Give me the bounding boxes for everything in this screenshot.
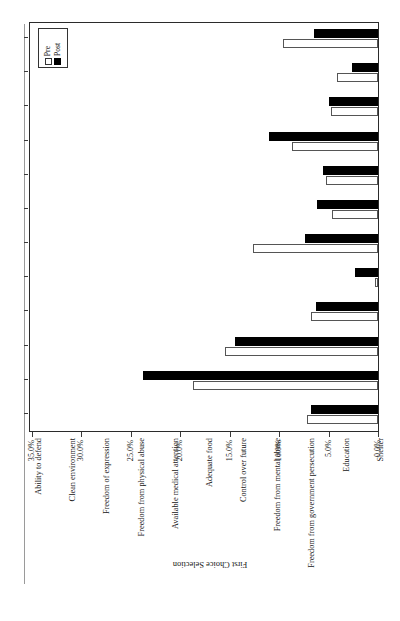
bar-group xyxy=(30,262,378,296)
bar-group xyxy=(30,126,378,160)
bar-post[interactable] xyxy=(314,29,378,38)
category-label: Clean environment xyxy=(69,438,77,501)
bar-pre[interactable] xyxy=(225,347,378,356)
category-axis-tick xyxy=(24,242,28,243)
category-label: Shelter xyxy=(377,438,385,462)
category-label: Freedom from mental abuse xyxy=(274,438,282,531)
bar-group xyxy=(30,23,378,57)
bar-post[interactable] xyxy=(316,302,378,311)
bar-pre[interactable] xyxy=(292,142,378,151)
bar-post[interactable] xyxy=(355,268,378,277)
category-label: Freedom from government persecution xyxy=(308,438,316,568)
category-axis-title: First Choice Selection xyxy=(150,560,270,569)
category-axis-tick xyxy=(24,413,28,414)
category-label: Adequate food xyxy=(206,438,214,487)
category-label: Available medical attention xyxy=(172,438,180,529)
bar-post[interactable] xyxy=(143,371,378,380)
bar-group xyxy=(30,399,378,433)
bar-group xyxy=(30,296,378,330)
value-axis-tick-label: 15.0% xyxy=(225,440,234,461)
bar-group xyxy=(30,91,378,125)
bar-pre[interactable] xyxy=(326,176,378,185)
bar-post[interactable] xyxy=(317,200,378,209)
chart-plot-area: Post Pre xyxy=(29,22,379,432)
bar-post[interactable] xyxy=(269,132,378,141)
value-axis-tick-label: 25.0% xyxy=(126,440,135,461)
bar-group xyxy=(30,160,378,194)
category-label: Freedom from physical abuse xyxy=(138,438,146,536)
bar-group xyxy=(30,194,378,228)
category-axis-tick xyxy=(24,276,28,277)
bar-pre[interactable] xyxy=(331,107,378,116)
bar-pre[interactable] xyxy=(193,381,378,390)
figure-page: Figure 10.1AMost Important for Personal … xyxy=(0,0,400,621)
category-label: Freedom of expression xyxy=(103,438,111,514)
value-axis-tick-label: 5.0% xyxy=(324,440,333,457)
bar-pre[interactable] xyxy=(375,278,378,287)
bar-post[interactable] xyxy=(352,63,378,72)
bar-group xyxy=(30,228,378,262)
value-axis-tick-label: 30.0% xyxy=(76,440,85,461)
category-label: Ability to defend xyxy=(35,438,43,495)
category-axis-tick xyxy=(24,37,28,38)
bar-post[interactable] xyxy=(323,166,378,175)
category-axis-tick xyxy=(24,105,28,106)
category-label: Education xyxy=(343,438,351,472)
bar-pre[interactable] xyxy=(307,415,378,424)
bar-pre[interactable] xyxy=(253,244,378,253)
bar-pre[interactable] xyxy=(337,73,378,82)
category-axis-tick xyxy=(24,208,28,209)
value-axis-tick xyxy=(378,432,379,437)
category-axis-tick xyxy=(24,140,28,141)
bar-post[interactable] xyxy=(329,97,378,106)
bar-group xyxy=(30,365,378,399)
category-axis-tick xyxy=(24,174,28,175)
bar-post[interactable] xyxy=(305,234,378,243)
bar-pre[interactable] xyxy=(283,39,378,48)
category-axis-tick xyxy=(24,71,28,72)
title-divider-rule xyxy=(24,24,25,584)
bar-pre[interactable] xyxy=(311,312,378,321)
category-axis-tick xyxy=(24,379,28,380)
bar-group xyxy=(30,331,378,365)
bar-post[interactable] xyxy=(235,337,378,346)
category-axis-tick xyxy=(24,310,28,311)
bar-post[interactable] xyxy=(311,405,378,414)
bar-pre[interactable] xyxy=(332,210,378,219)
category-axis-tick xyxy=(24,345,28,346)
bar-group xyxy=(30,57,378,91)
category-label: Control over future xyxy=(240,438,248,502)
